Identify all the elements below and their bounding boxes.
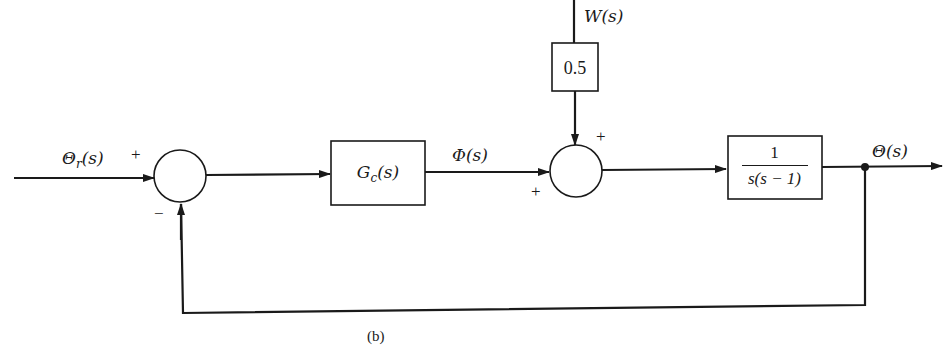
- plant-input-line: [602, 169, 726, 170]
- output-signal-line: [822, 166, 942, 167]
- input-label: Θr(s): [62, 150, 104, 170]
- disturbance-gain-value: 0.5: [552, 59, 598, 77]
- controller-suffix: (s): [377, 162, 399, 182]
- summing-junction-2: [550, 145, 602, 197]
- sum2-plus-sign-left: +: [531, 183, 541, 200]
- disturbance-label: W(s): [584, 8, 623, 25]
- sum1-plus-sign: +: [131, 146, 141, 163]
- sum2-plus-sign-top: +: [596, 128, 606, 145]
- controller-label: Gc(s): [331, 164, 425, 184]
- summing-junction-1: [154, 150, 206, 202]
- input-suffix: (s): [82, 148, 104, 168]
- controller-symbol: G: [357, 162, 371, 182]
- controller-output-label: Φ(s): [452, 147, 488, 164]
- plant-numerator: 1: [770, 143, 779, 165]
- sum1-minus-sign: −: [154, 205, 164, 222]
- figure-caption: (b): [367, 329, 385, 344]
- takeoff-point: [861, 163, 869, 171]
- plant-transfer-function: 1 s(s − 1): [727, 136, 822, 196]
- input-symbol: Θ: [62, 148, 76, 168]
- output-label: Θ(s): [872, 143, 908, 160]
- error-signal-line: [206, 174, 330, 175]
- plant-denominator: s(s − 1): [748, 166, 801, 189]
